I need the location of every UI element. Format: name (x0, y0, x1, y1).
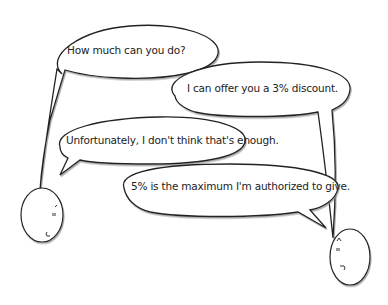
speech-text-4: 5% is the maximum I'm authorized to give… (131, 180, 350, 192)
speech-bubble-4 (123, 164, 338, 228)
left-character (21, 188, 63, 242)
speech-text-3: Unfortunately, I don't think that's enou… (66, 134, 279, 146)
comic-canvas: How much can you do? I can offer you a 3… (0, 0, 388, 305)
speech-text-2: I can offer you a 3% discount. (187, 82, 338, 94)
comic-illustration (0, 0, 388, 305)
speech-text-1: How much can you do? (67, 44, 185, 56)
right-character (330, 229, 370, 285)
